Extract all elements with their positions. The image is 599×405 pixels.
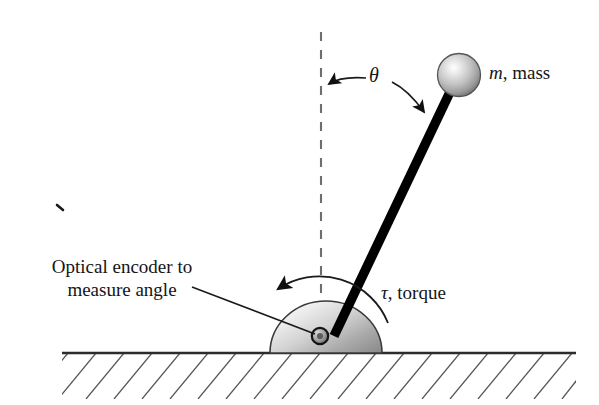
hemisphere-body <box>270 301 382 353</box>
ground-hatching <box>30 353 598 399</box>
theta-arrow-to-vertical <box>329 78 366 84</box>
encoder-label-line-2: measure angle <box>67 279 176 300</box>
encoder-label: Optical encoder to measure angle <box>22 255 222 301</box>
pendulum-encoder-diagram: Optical encoder to measure angle m, mass… <box>0 0 599 405</box>
mass-sphere-body <box>438 54 481 97</box>
mass-label: m, mass <box>489 61 550 84</box>
pendulum-mass-sphere <box>438 54 481 97</box>
theta-arrow-to-rod <box>392 82 424 112</box>
torque-label-text: , torque <box>388 282 446 303</box>
theta-label: θ <box>369 63 379 87</box>
pivot-bearing <box>312 328 328 344</box>
torque-label: τ, torque <box>381 281 446 304</box>
mass-label-text: , mass <box>503 62 551 83</box>
encoder-label-line-1: Optical encoder to <box>52 256 192 277</box>
encoder-hemisphere <box>270 301 382 353</box>
mass-symbol: m <box>489 62 503 83</box>
pivot-center-dot <box>317 333 323 339</box>
stray-tick-mark <box>57 205 63 210</box>
torque-symbol: τ <box>381 282 388 303</box>
ground-hatched-surface <box>30 353 598 399</box>
